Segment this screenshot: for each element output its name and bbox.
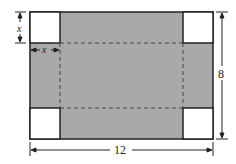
corner-width-label: x: [41, 44, 47, 55]
diagram-canvas: x x 8 12: [0, 0, 236, 164]
corner-square-bottom-left: [30, 108, 60, 139]
corner-height-label: x: [16, 23, 22, 34]
height-label: 8: [218, 67, 224, 81]
width-label: 12: [114, 143, 126, 157]
corner-square-top-right: [183, 12, 213, 43]
corner-square-top-left: [30, 12, 60, 43]
corner-square-bottom-right: [183, 108, 213, 139]
